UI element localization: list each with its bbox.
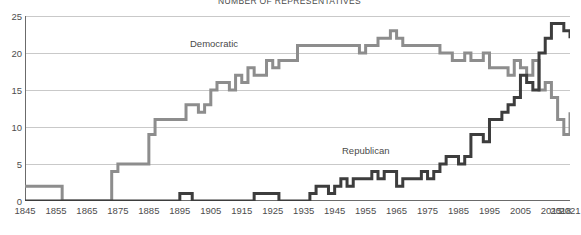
x-tick-1865: 1865 xyxy=(76,205,97,216)
y-axis-tick-labels: 0510152025 xyxy=(0,16,22,201)
chart-title: NUMBER OF REPRESENTATIVES xyxy=(0,0,579,6)
x-tick-1855: 1855 xyxy=(45,205,66,216)
x-axis-tick-labels: 1845185518651875188518951905191519251935… xyxy=(0,205,579,223)
y-tick-10: 10 xyxy=(11,122,22,133)
series-label-democratic: Democratic xyxy=(190,38,238,49)
x-tick-1995: 1995 xyxy=(479,205,500,216)
x-tick-1895: 1895 xyxy=(169,205,190,216)
x-tick-1875: 1875 xyxy=(107,205,128,216)
chart-svg xyxy=(25,16,570,201)
x-tick-2005: 2005 xyxy=(510,205,531,216)
series-label-republican: Republican xyxy=(342,145,390,156)
data-series-group xyxy=(25,23,570,201)
x-tick-1885: 1885 xyxy=(138,205,159,216)
y-tick-5: 5 xyxy=(17,159,22,170)
axis-lines xyxy=(25,16,570,201)
x-tick-1925: 1925 xyxy=(262,205,283,216)
x-tick-2021: 2021 xyxy=(559,205,580,216)
x-tick-1915: 1915 xyxy=(231,205,252,216)
x-tick-1955: 1955 xyxy=(355,205,376,216)
x-tick-1935: 1935 xyxy=(293,205,314,216)
x-tick-1905: 1905 xyxy=(200,205,221,216)
y-tick-25: 25 xyxy=(11,11,22,22)
plot-area xyxy=(25,16,570,201)
x-tick-1945: 1945 xyxy=(324,205,345,216)
x-tick-1845: 1845 xyxy=(14,205,35,216)
y-tick-20: 20 xyxy=(11,48,22,59)
x-tick-1985: 1985 xyxy=(448,205,469,216)
x-tick-1965: 1965 xyxy=(386,205,407,216)
series-line-democratic xyxy=(25,31,570,201)
y-tick-15: 15 xyxy=(11,85,22,96)
x-tick-1975: 1975 xyxy=(417,205,438,216)
